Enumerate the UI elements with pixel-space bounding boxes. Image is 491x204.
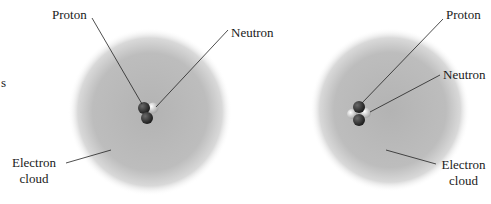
left-atom: [66, 18, 232, 196]
proton: [353, 114, 365, 126]
right-proton-label: Proton: [446, 7, 481, 22]
proton: [141, 112, 153, 124]
left-electron-cloud-label-line2: cloud: [5, 171, 63, 186]
right-neutron-label: Neutron: [443, 67, 486, 82]
left-neutron-label: Neutron: [231, 25, 274, 40]
left-electron-cloud-label-line1: Electron: [5, 155, 63, 170]
right-electron-cloud-label-line1: Electron: [436, 157, 491, 172]
left-proton-label: Proton: [52, 7, 87, 22]
proton: [353, 101, 365, 113]
edge-text-fragment: s: [1, 75, 6, 90]
right-electron-cloud-label-line2: cloud: [436, 173, 491, 188]
